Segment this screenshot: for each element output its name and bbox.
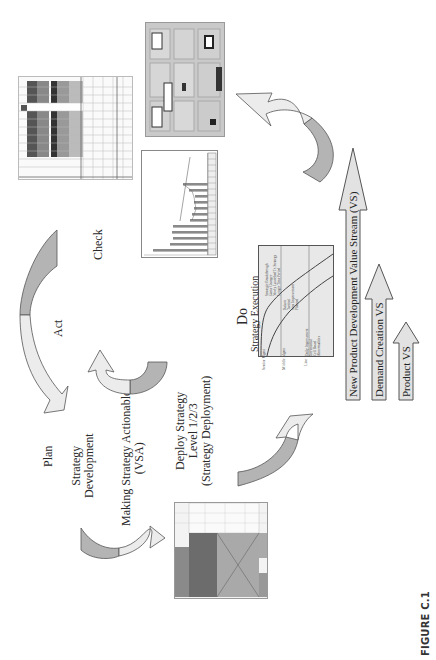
value-stream-arrows — [0, 0, 436, 660]
demand-creation-vs-label: Demand Creation VS — [372, 302, 386, 397]
figure-caption: FIGURE C.1 — [420, 591, 431, 656]
product-vs-label: Product VS — [399, 346, 413, 397]
npd-value-stream-label: New Product Development Value Stream (VS… — [346, 192, 360, 397]
